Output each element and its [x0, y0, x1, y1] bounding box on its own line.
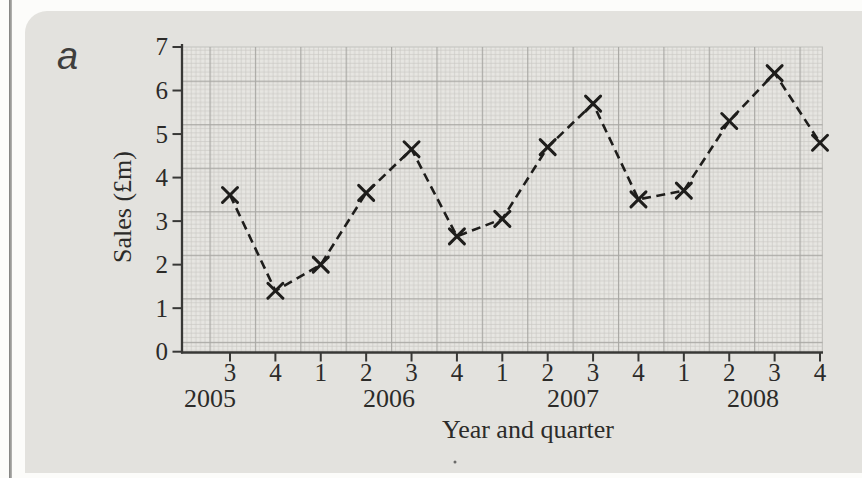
quarter-tick-label: 4 — [814, 359, 827, 386]
quarter-tick-label: 2 — [723, 359, 736, 386]
y-tick-label: 6 — [156, 77, 169, 104]
quarter-tick-label: 4 — [632, 359, 645, 386]
y-tick-label: 4 — [156, 164, 169, 191]
graph-paper-grid — [182, 47, 823, 353]
quarter-tick-label: 1 — [678, 359, 691, 386]
y-tick-label: 2 — [156, 251, 169, 278]
quarter-tick-label: 4 — [451, 359, 464, 386]
year-label: 2007 — [547, 384, 599, 413]
x-axis-title: Year and quarter — [442, 415, 614, 444]
y-axis-ticks: 01234567 — [156, 33, 183, 365]
y-tick-label: 1 — [156, 295, 169, 322]
year-labels: 2005200620072008 — [184, 384, 779, 413]
y-axis-title: Sales (£m) — [108, 151, 137, 263]
quarter-tick-label: 2 — [360, 359, 373, 386]
y-tick-label: 3 — [156, 208, 169, 235]
quarter-tick-label: 2 — [541, 359, 554, 386]
quarter-tick-label: 3 — [224, 359, 237, 386]
quarter-tick-label: 4 — [269, 359, 282, 386]
y-tick-label: 5 — [156, 121, 169, 148]
quarter-tick-label: 1 — [496, 359, 509, 386]
year-label: 2006 — [363, 384, 415, 413]
year-label: 2005 — [184, 384, 236, 413]
quarter-tick-label: 3 — [587, 359, 600, 386]
y-tick-label: 7 — [156, 33, 169, 60]
quarter-tick-label: 1 — [315, 359, 328, 386]
scan-speck — [454, 461, 457, 464]
x-axis-ticks: 34123412341234 — [224, 352, 827, 386]
sales-line-chart: 01234567 34123412341234 2005200620072008… — [0, 0, 862, 478]
y-tick-label: 0 — [156, 338, 169, 365]
quarter-tick-label: 3 — [405, 359, 418, 386]
quarter-tick-label: 3 — [768, 359, 781, 386]
year-label: 2008 — [727, 384, 779, 413]
